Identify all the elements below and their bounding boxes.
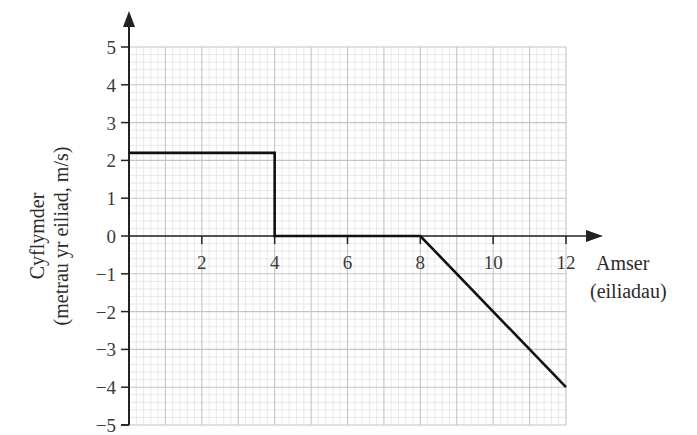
velocity-time-chart: 24681012 543210−1−2−3−4−5 Amser (eiliada… xyxy=(0,0,697,435)
y-tick-label: 4 xyxy=(107,75,117,96)
x-tick-label: 12 xyxy=(557,252,576,273)
y-tick-label: −4 xyxy=(96,377,117,398)
y-tick-label: −5 xyxy=(96,415,116,435)
x-tick-labels: 24681012 xyxy=(197,252,575,273)
y-tick-labels: 543210−1−2−3−4−5 xyxy=(96,37,117,435)
x-axis-arrow-icon xyxy=(586,230,603,242)
y-tick-label: 5 xyxy=(107,37,117,58)
y-axis-arrow-icon xyxy=(123,11,135,27)
y-tick-label: 1 xyxy=(107,188,117,209)
x-axis-title: Amser xyxy=(596,252,650,274)
x-tick-label: 8 xyxy=(416,252,426,273)
y-axis-subtitle: (metrau yr eiliad, m/s) xyxy=(50,147,73,326)
x-tick-label: 6 xyxy=(343,252,353,273)
x-axis-subtitle: (eiliadau) xyxy=(590,280,667,303)
x-tick-label: 2 xyxy=(197,252,207,273)
y-axis-title: Cyflymder xyxy=(26,192,49,279)
y-tick-label: 3 xyxy=(107,113,117,134)
x-tick-label: 4 xyxy=(270,252,280,273)
y-tick-label: −2 xyxy=(96,302,116,323)
x-tick-label: 10 xyxy=(484,252,503,273)
y-tick-label: 2 xyxy=(107,150,117,171)
y-tick-label: −1 xyxy=(96,264,116,285)
y-tick-label: −3 xyxy=(96,339,116,360)
y-tick-label: 0 xyxy=(107,226,117,247)
